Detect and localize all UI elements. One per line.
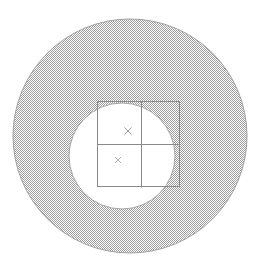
annulus-hatch-fill bbox=[0, 0, 261, 272]
annulus-group bbox=[0, 0, 261, 272]
figure-canvas bbox=[0, 0, 261, 272]
geometry-diagram bbox=[0, 0, 261, 272]
